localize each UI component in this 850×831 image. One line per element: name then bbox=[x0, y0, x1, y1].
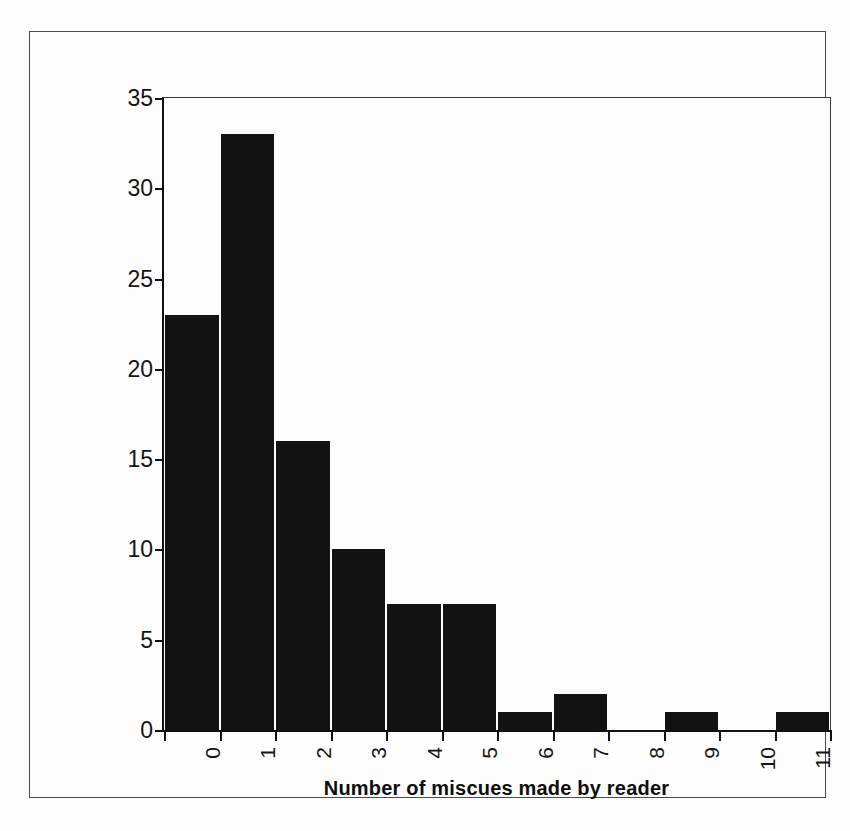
x-axis-tick bbox=[608, 730, 610, 741]
bar bbox=[331, 549, 387, 730]
x-axis-tick-label: 10 bbox=[756, 747, 780, 770]
x-axis-tick bbox=[386, 730, 388, 741]
figure-outer-frame: 05101520253035 01234567891011 Number of … bbox=[29, 31, 826, 798]
y-axis-tick bbox=[155, 549, 164, 551]
x-axis-tick-label: 2 bbox=[312, 747, 336, 759]
x-axis-tick-label: 3 bbox=[367, 747, 391, 759]
x-axis-tick-label: 7 bbox=[589, 747, 613, 759]
x-axis-tick bbox=[775, 730, 777, 741]
y-axis-tick-label: 35 bbox=[127, 85, 153, 112]
y-axis-tick bbox=[155, 279, 164, 281]
x-axis-tick-label: 4 bbox=[423, 747, 447, 759]
y-axis-tick bbox=[155, 640, 164, 642]
bar bbox=[275, 441, 331, 730]
y-axis-tick-label: 5 bbox=[140, 626, 153, 653]
y-axis-tick-label: 0 bbox=[140, 717, 153, 744]
plot-area: 05101520253035 01234567891011 bbox=[162, 97, 831, 732]
bar bbox=[553, 694, 609, 730]
x-axis-tick bbox=[830, 730, 832, 741]
x-axis-tick-label: 1 bbox=[256, 747, 280, 759]
y-axis-tick-label: 10 bbox=[127, 536, 153, 563]
x-axis-tick bbox=[331, 730, 333, 741]
x-axis-tick-label: 11 bbox=[811, 747, 835, 769]
y-axis-tick bbox=[155, 98, 164, 100]
x-axis-title: Number of miscues made by reader bbox=[162, 777, 831, 800]
x-axis-tick-label: 6 bbox=[534, 747, 558, 759]
x-axis-tick-label: 8 bbox=[645, 747, 669, 759]
x-axis-tick-label: 5 bbox=[478, 747, 502, 759]
y-axis-tick-label: 15 bbox=[127, 446, 153, 473]
bar bbox=[386, 604, 442, 730]
y-axis-tick bbox=[155, 459, 164, 461]
bar bbox=[664, 712, 720, 730]
x-axis-tick bbox=[553, 730, 555, 741]
y-axis-tick-label: 25 bbox=[127, 265, 153, 292]
x-axis-tick bbox=[664, 730, 666, 741]
y-axis-tick-label: 20 bbox=[127, 355, 153, 382]
x-axis-tick bbox=[275, 730, 277, 741]
x-axis-tick bbox=[220, 730, 222, 741]
x-axis-tick-label: 9 bbox=[700, 747, 724, 759]
y-axis-tick-label: 30 bbox=[127, 175, 153, 202]
bar bbox=[497, 712, 553, 730]
x-axis-tick bbox=[497, 730, 499, 741]
x-axis-tick-label: 0 bbox=[201, 747, 225, 759]
figure: 05101520253035 01234567891011 Number of … bbox=[0, 0, 850, 831]
x-axis-tick bbox=[719, 730, 721, 741]
y-axis-tick bbox=[155, 369, 164, 371]
y-axis-tick bbox=[155, 188, 164, 190]
bar-series bbox=[164, 98, 830, 730]
x-axis-tick bbox=[164, 730, 166, 741]
y-axis-tick bbox=[155, 730, 164, 732]
bar bbox=[442, 604, 498, 730]
bar bbox=[220, 134, 276, 730]
bar bbox=[775, 712, 831, 730]
bar bbox=[164, 315, 220, 730]
x-axis-tick bbox=[442, 730, 444, 741]
